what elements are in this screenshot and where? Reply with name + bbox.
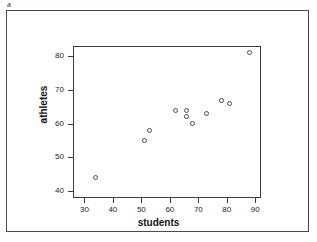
x-tick-mark bbox=[141, 198, 142, 203]
x-tick-mark bbox=[170, 198, 171, 203]
x-tick-label: 40 bbox=[103, 205, 123, 214]
y-tick-mark bbox=[68, 124, 73, 125]
panel-letter: a bbox=[7, 0, 11, 10]
scatter-point bbox=[142, 138, 147, 143]
y-tick-label: 40 bbox=[44, 186, 64, 195]
y-axis-title: athletes bbox=[38, 75, 49, 135]
plot-frame bbox=[73, 46, 261, 198]
x-tick-label: 80 bbox=[217, 205, 237, 214]
scatter-point bbox=[173, 108, 178, 113]
x-tick-label: 30 bbox=[74, 205, 94, 214]
x-axis-title: students bbox=[7, 217, 310, 228]
x-tick-label: 70 bbox=[188, 205, 208, 214]
plot-area: 4050607080 30405060708090 athletes stude… bbox=[7, 11, 310, 233]
y-tick-mark bbox=[68, 191, 73, 192]
x-tick-mark bbox=[227, 198, 228, 203]
figure-border: 4050607080 30405060708090 athletes stude… bbox=[6, 10, 309, 232]
y-tick-mark bbox=[68, 56, 73, 57]
x-tick-label: 50 bbox=[131, 205, 151, 214]
y-tick-mark bbox=[68, 90, 73, 91]
scatter-point bbox=[219, 98, 224, 103]
x-tick-mark bbox=[198, 198, 199, 203]
x-tick-label: 90 bbox=[245, 205, 265, 214]
x-tick-mark bbox=[84, 198, 85, 203]
y-axis-title-text: athletes bbox=[38, 86, 49, 124]
x-tick-mark bbox=[113, 198, 114, 203]
y-tick-label: 80 bbox=[44, 51, 64, 60]
x-tick-label: 60 bbox=[160, 205, 180, 214]
x-tick-mark bbox=[255, 198, 256, 203]
figure-panel: a 4050607080 30405060708090 athletes stu… bbox=[0, 0, 317, 242]
y-tick-mark bbox=[68, 157, 73, 158]
y-tick-label: 50 bbox=[44, 152, 64, 161]
